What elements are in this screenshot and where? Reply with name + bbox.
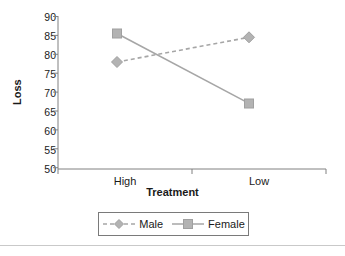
x-axis-title: Treatment	[0, 186, 345, 198]
series-male	[112, 32, 255, 68]
legend-entry-male[interactable]: Male	[102, 218, 163, 230]
data-point-male-high	[112, 57, 123, 68]
legend-swatch-female-icon	[171, 218, 205, 230]
x-axis-ticks	[58, 169, 326, 174]
legend-label-male: Male	[139, 218, 163, 230]
data-point-male-low	[244, 32, 255, 43]
data-point-female-low	[245, 99, 254, 108]
series-female	[113, 29, 254, 108]
interaction-plot-figure: Loss 90 85 80 75 70 65 60 55 50	[0, 0, 345, 256]
legend-swatch-male-icon	[102, 218, 136, 230]
y-axis-ticks	[53, 17, 58, 168]
chart-legend: Male Female	[98, 212, 249, 236]
data-point-female-high	[113, 29, 122, 38]
legend-label-female: Female	[208, 218, 245, 230]
axis-lines	[58, 16, 326, 169]
legend-entry-female[interactable]: Female	[171, 218, 245, 230]
bottom-separator	[0, 245, 345, 246]
